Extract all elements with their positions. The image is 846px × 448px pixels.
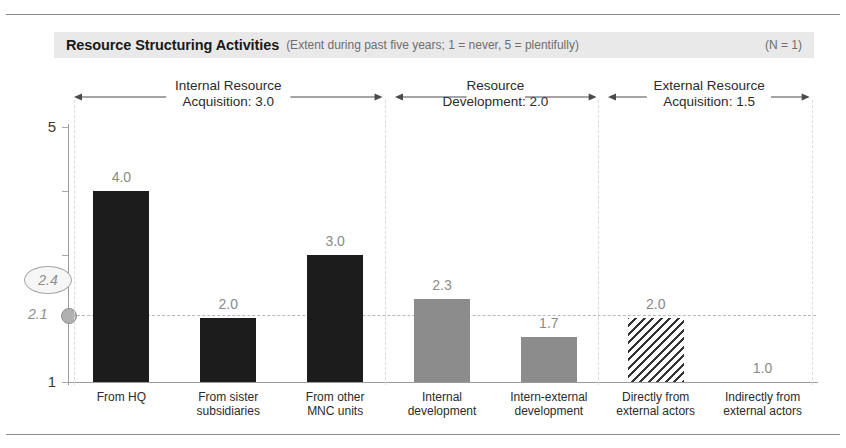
x-label-line: external actors	[708, 404, 818, 418]
x-label-line: From sister	[173, 390, 283, 404]
bar-value-label-3: 3.0	[295, 233, 375, 249]
group-span-arrow-1	[74, 92, 383, 102]
chart-subtitle: (Extent during past five years; 1 = neve…	[286, 38, 579, 52]
reference-oval-annotation: 2.4	[24, 266, 72, 294]
sample-size-note: (N = 1)	[765, 38, 802, 52]
x-axis-label-6: Directly fromexternal actors	[601, 390, 711, 418]
bar-value-label-2: 2.0	[188, 296, 268, 312]
bar-1	[93, 191, 149, 382]
bar-5	[521, 337, 577, 382]
x-axis-label-4: Internaldevelopment	[387, 390, 497, 418]
x-label-line: external actors	[601, 404, 711, 418]
x-axis-label-1: From HQ	[66, 390, 176, 404]
bar-6	[628, 318, 684, 382]
x-label-line: development	[387, 404, 497, 418]
bar-value-label-6: 2.0	[616, 296, 696, 312]
chart-title: Resource Structuring Activities	[66, 37, 279, 53]
page-rule-top	[6, 14, 840, 15]
bar-value-label-7: 1.0	[723, 360, 803, 376]
group-span-arrow-3	[608, 92, 810, 102]
group-span-arrow-2	[395, 92, 597, 102]
bar-4	[414, 299, 470, 382]
x-axis-label-5: Intern-externaldevelopment	[494, 390, 604, 418]
x-label-line: Intern-external	[494, 390, 604, 404]
x-label-line: subsidiaries	[173, 404, 283, 418]
y-axis-label-min: 1	[30, 373, 56, 390]
bar-3	[307, 255, 363, 383]
x-axis-label-7: Indirectly fromexternal actors	[708, 390, 818, 418]
x-axis-label-3: From otherMNC units	[280, 390, 390, 418]
bar-value-label-5: 1.7	[509, 315, 589, 331]
y-axis-tick	[62, 382, 69, 383]
bar-value-label-4: 2.3	[402, 277, 482, 293]
x-axis-label-2: From sistersubsidiaries	[173, 390, 283, 418]
x-label-line: Directly from	[601, 390, 711, 404]
page-rule-bottom	[6, 434, 840, 435]
x-axis-line	[66, 382, 818, 383]
x-label-line: From HQ	[66, 390, 176, 404]
x-label-line: Internal	[387, 390, 497, 404]
chart-title-band: Resource Structuring Activities (Extent …	[54, 32, 814, 58]
plot-area	[68, 127, 816, 382]
x-label-line: Indirectly from	[708, 390, 818, 404]
bar-2	[200, 318, 256, 382]
y-axis-label-max: 5	[30, 118, 56, 135]
x-label-line: From other	[280, 390, 390, 404]
reference-value-label: 2.1	[28, 306, 47, 322]
x-label-line: MNC units	[280, 404, 390, 418]
x-label-line: development	[494, 404, 604, 418]
bar-value-label-1: 4.0	[81, 169, 161, 185]
